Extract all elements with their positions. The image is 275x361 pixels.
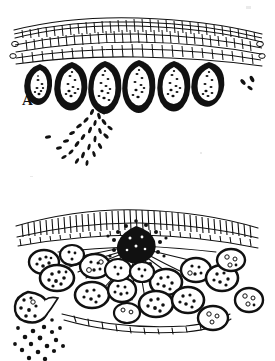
sporangium-b-8 xyxy=(172,287,204,313)
sporangium-b-12 xyxy=(235,288,263,312)
released-spores-b xyxy=(13,318,65,361)
sporangium-a-4 xyxy=(122,60,155,113)
figure-plate: A xyxy=(0,0,275,361)
discharged-spores-a xyxy=(45,108,114,166)
sporangium-a-2 xyxy=(54,62,87,111)
sporangium-b-16 xyxy=(60,245,84,265)
panel-a: A xyxy=(0,0,275,181)
panel-label-a: A xyxy=(22,93,33,108)
detached-spores-a xyxy=(239,75,255,91)
sporangium-b-14 xyxy=(105,259,131,281)
panel-b: B xyxy=(0,180,275,361)
sporangium-b-17 xyxy=(114,303,140,323)
sporangium-a-5 xyxy=(157,61,190,112)
host-tissue-a xyxy=(14,18,262,66)
sporangium-b-2 xyxy=(40,265,74,291)
scan-speck xyxy=(30,176,33,177)
sporangium-b-7 xyxy=(139,291,173,317)
sporangium-b-11 xyxy=(217,249,245,271)
sporangium-b-15 xyxy=(130,262,154,282)
ruptured-sporangium-b xyxy=(15,292,58,322)
sporangium-b-4 xyxy=(75,282,109,308)
scan-speck xyxy=(200,152,202,154)
sporangium-a-3 xyxy=(88,61,121,114)
sporangium-b-13 xyxy=(198,306,228,330)
panel-a-drawing xyxy=(0,0,275,181)
sporangium-a-6 xyxy=(191,62,224,107)
scan-speck xyxy=(246,6,251,9)
panel-b-drawing xyxy=(0,180,275,361)
sporangia-group-a xyxy=(24,60,224,114)
